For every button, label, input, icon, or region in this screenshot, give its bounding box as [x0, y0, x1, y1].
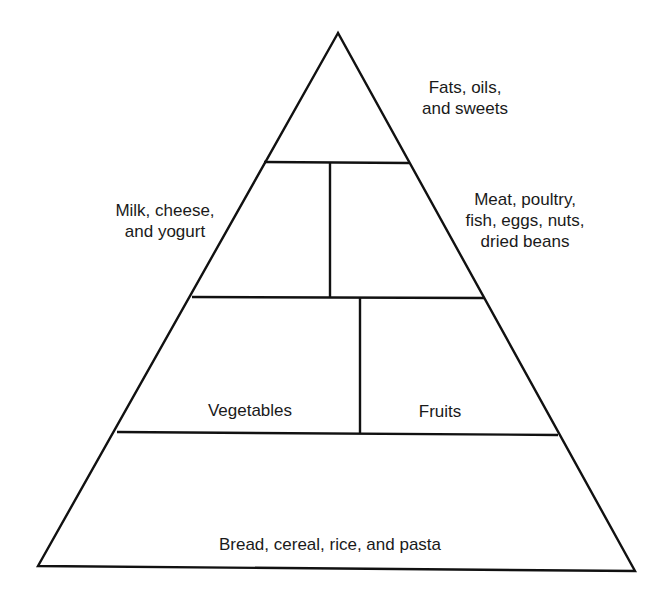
label-fruits: Fruits — [390, 401, 490, 422]
label-bread-cereal-rice-pasta: Bread, cereal, rice, and pasta — [180, 534, 480, 555]
label-vegetables: Vegetables — [185, 400, 315, 421]
tier-divider-3 — [117, 432, 558, 435]
label-meat-poultry-fish: Meat, poultry, fish, eggs, nuts, dried b… — [440, 189, 610, 252]
tier-divider-1 — [264, 162, 409, 163]
label-milk-cheese-yogurt: Milk, cheese, and yogurt — [90, 200, 240, 242]
tier-divider-2 — [192, 297, 484, 298]
food-pyramid — [0, 0, 661, 601]
label-fats-oils-sweets: Fats, oils, and sweets — [390, 77, 540, 119]
pyramid-outline — [38, 33, 635, 571]
